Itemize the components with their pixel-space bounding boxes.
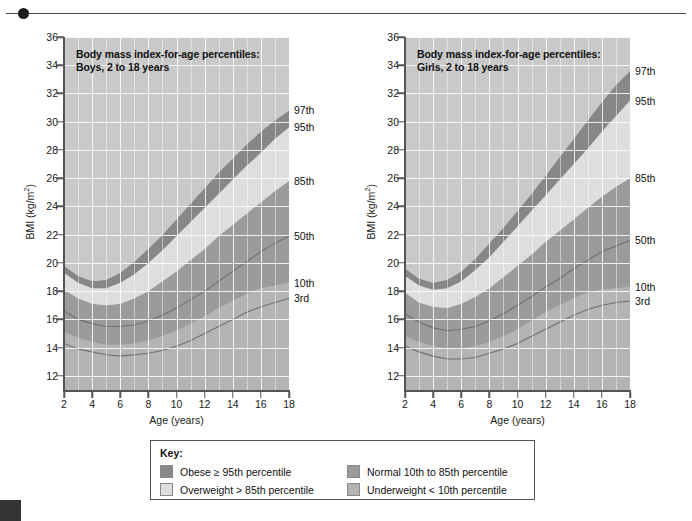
x-tick-label: 6 [458,398,464,410]
y-tick-mark [56,93,64,95]
y-tick-label: 30 [30,116,58,128]
key-swatch [347,483,360,496]
x-tick-mark [517,392,519,398]
y-tick-mark [56,290,64,292]
x-tick-label: 16 [596,398,608,410]
x-tick-label: 12 [540,398,552,410]
gridline-horizontal [64,150,289,151]
gridline-horizontal [64,37,289,38]
gridline-horizontal [405,291,630,292]
gridline-vertical [433,37,434,390]
gridline-vertical [92,37,93,390]
x-tick-label: 16 [255,398,267,410]
y-axis-label-exponent: 2 [363,188,372,192]
x-tick-label: 4 [89,398,95,410]
y-tick-mark [397,121,405,123]
y-axis-line-boys [63,37,65,392]
plot-area-girls [405,37,630,390]
gridline-horizontal [64,235,289,236]
x-tick-mark [260,392,262,398]
gridline-horizontal [405,319,630,320]
y-axis-label-girls: BMI (kg/m2) [363,152,377,272]
key-item: Normal 10th to 85th percentile [347,465,508,478]
key-legend-box: Key: Obese ≥ 95th percentileOverweight >… [150,440,535,500]
y-tick-label: 16 [371,313,399,325]
gridline-vertical [205,37,206,390]
x-tick-mark [148,392,150,398]
x-tick-label: 4 [430,398,436,410]
x-tick-mark [232,392,234,398]
gridline-horizontal [64,319,289,320]
gridline-vertical [261,37,262,390]
x-tick-label: 14 [568,398,580,410]
percentile-label-97th: 97th [294,104,314,116]
y-axis-label-close: ) [365,184,377,188]
y-tick-mark [56,149,64,151]
gridline-vertical-minor [532,37,533,390]
gridline-vertical [574,37,575,390]
gridline-vertical [148,37,149,390]
gridline-horizontal [64,348,289,349]
y-tick-mark [397,177,405,179]
gridline-horizontal [405,122,630,123]
y-tick-mark [397,347,405,349]
key-item: Obese ≥ 95th percentile [160,465,291,478]
key-item: Underweight < 10th percentile [347,483,507,496]
y-tick-mark [56,262,64,264]
chart-title-line2: Boys, 2 to 18 years [76,61,260,74]
gridline-horizontal [405,93,630,94]
y-tick-mark [397,234,405,236]
percentile-label-97th: 97th [635,65,655,77]
chart-title-boys: Body mass index-for-age percentiles: Boy… [76,48,260,74]
y-axis-line-girls [404,37,406,392]
chart-boys: 12141618202224262830323436 2468101214161… [6,30,341,430]
y-tick-mark [56,319,64,321]
percentile-label-3rd: 3rd [294,292,309,304]
percentile-label-50th: 50th [635,234,655,246]
x-axis-label-girls: Age (years) [405,414,630,426]
gridline-vertical [461,37,462,390]
gridline-vertical [602,37,603,390]
x-tick-label: 2 [402,398,408,410]
gridline-horizontal [64,376,289,377]
y-axis-label-exponent: 2 [22,188,31,192]
percentile-label-3rd: 3rd [635,295,650,307]
gridline-vertical [518,37,519,390]
key-item-label: Obese ≥ 95th percentile [180,466,291,478]
gridline-horizontal [405,37,630,38]
y-tick-mark [397,206,405,208]
gridline-horizontal [405,150,630,151]
y-tick-mark [56,177,64,179]
header-divider [6,13,686,14]
chart-title-girls: Body mass index-for-age percentiles: Gir… [417,48,601,74]
plot-area-boys [64,37,289,390]
y-tick-mark [397,93,405,95]
gridline-horizontal [64,206,289,207]
gridline-horizontal [405,235,630,236]
gridline-vertical-minor [78,37,79,390]
gridline-vertical [233,37,234,390]
x-tick-label: 8 [145,398,151,410]
y-tick-label: 30 [371,116,399,128]
y-tick-mark [56,347,64,349]
x-tick-label: 18 [624,398,636,410]
x-tick-label: 10 [171,398,183,410]
y-tick-mark [56,375,64,377]
percentile-label-50th: 50th [294,230,314,242]
gridline-vertical-minor [447,37,448,390]
gridline-vertical-minor [134,37,135,390]
y-axis-label-text: BMI (kg/m [24,192,36,240]
gridline-vertical-minor [616,37,617,390]
gridline-horizontal [64,178,289,179]
x-tick-label: 10 [512,398,524,410]
x-tick-label: 14 [227,398,239,410]
header-bullet-icon [18,8,29,19]
x-axis-label-boys: Age (years) [64,414,289,426]
y-tick-mark [56,36,64,38]
chart-title-line2: Girls, 2 to 18 years [417,61,601,74]
y-tick-label: 32 [30,87,58,99]
key-swatch [347,465,360,478]
y-tick-mark [397,64,405,66]
gridline-vertical-minor [162,37,163,390]
y-tick-label: 12 [30,370,58,382]
